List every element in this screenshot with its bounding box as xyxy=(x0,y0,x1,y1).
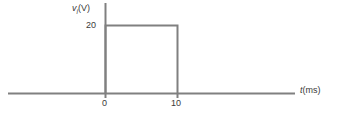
x-tick-label-10: 10 xyxy=(171,99,181,108)
x-axis-unit: (ms) xyxy=(303,85,321,95)
voltage-pulse-figure: vi(V) 20 0 10 t(ms) xyxy=(0,0,339,121)
y-axis-unit: (V) xyxy=(78,3,90,13)
x-axis-title: t(ms) xyxy=(300,86,321,95)
y-axis-title: vi(V) xyxy=(72,4,90,15)
pulse-waveform xyxy=(106,26,178,94)
y-tick-label-20: 20 xyxy=(86,21,96,30)
x-tick-label-0: 0 xyxy=(102,99,107,108)
plot-area xyxy=(0,0,339,121)
